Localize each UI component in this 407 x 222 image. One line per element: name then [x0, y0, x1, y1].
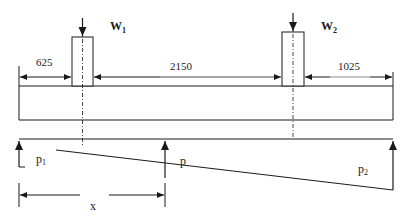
- label-p2: p2: [358, 162, 368, 177]
- label-p: p: [180, 154, 186, 168]
- dim-1025: 1025: [338, 60, 361, 72]
- dim-625: 625: [36, 56, 53, 68]
- column-1: [72, 18, 93, 146]
- pressure-arrow-p1: [19, 141, 25, 167]
- pressure-diagram: [19, 139, 393, 190]
- dim-2150: 2150: [170, 60, 193, 72]
- label-p1: p1: [36, 152, 46, 167]
- label-w2: W2: [321, 19, 337, 35]
- column-2: [282, 13, 304, 137]
- footing-diagram: W1 W2 625 2150 1025 p1 p p2 x: [0, 0, 407, 222]
- label-w1: W1: [110, 19, 126, 35]
- label-x: x: [90, 199, 96, 213]
